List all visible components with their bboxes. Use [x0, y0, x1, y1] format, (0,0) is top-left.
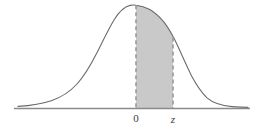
normal-distribution-figure: 0 z	[0, 0, 261, 130]
shaded-area-region	[136, 5, 173, 108]
normal-curve-line	[18, 5, 248, 107]
axis-tick-label-z: z	[171, 114, 175, 125]
bell-curve-chart	[0, 0, 261, 130]
axis-tick-label-zero: 0	[133, 113, 139, 124]
